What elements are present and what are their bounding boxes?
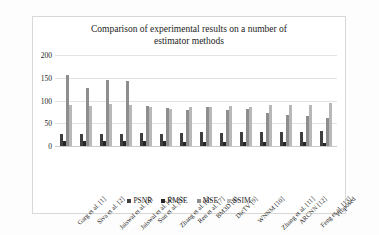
bar-ssim [109,104,112,146]
bar-group [236,55,256,146]
legend-label: SSIM [233,196,251,205]
bar-group [56,55,76,146]
chart-container: Comparison of experimental results on a … [32,16,346,214]
x-axis-labels: Garg et al. [1]Siva et al. [2]Jaiswal et… [55,148,337,200]
bar-ssim [249,107,252,146]
chart-title: Comparison of experimental results on a … [33,23,345,47]
bar-group [76,55,96,146]
chart-title-line-2: estimator methods [33,35,345,47]
bar-group [216,55,236,146]
bar-group [96,55,116,146]
y-axis-tick-label: 150 [41,73,52,82]
legend-swatch-icon [161,199,165,203]
bar-group [256,55,276,146]
bar-ssim [69,105,72,146]
bar-group [316,55,336,146]
bar-ssim [229,106,232,146]
legend-swatch-icon [197,199,201,203]
legend-swatch-icon [127,199,131,203]
plot-wrapper: 050100150200 [55,55,337,147]
legend-item[interactable]: SSIM [227,196,251,205]
y-axis-tick-label: 0 [48,142,52,151]
legend-item[interactable]: PSNR [127,196,152,205]
bar-ssim [209,107,212,146]
bar-group [196,55,216,146]
bar-ssim [289,105,292,146]
legend-label: RMSE [167,196,187,205]
bar-ssim [89,106,92,146]
legend-item[interactable]: RMSE [161,196,187,205]
legend-swatch-icon [227,199,231,203]
bar-ssim [329,103,332,146]
chart-title-line-1: Comparison of experimental results on a … [33,23,345,35]
bar-ssim [169,109,172,146]
legend-item[interactable]: MSE [197,196,218,205]
bar-ssim [149,107,152,146]
y-axis-tick-label: 50 [45,119,53,128]
y-axis-tick-label: 100 [41,96,52,105]
bar-ssim [309,105,312,146]
bar-group [136,55,156,146]
bar-group [156,55,176,146]
chart-legend: PSNRRMSEMSESSIM [33,196,345,205]
bar-group [176,55,196,146]
bar-group [276,55,296,146]
bar-ssim [269,105,272,146]
bar-group [116,55,136,146]
bar-group [296,55,316,146]
y-axis-tick-label: 200 [41,51,52,60]
bar-ssim [129,105,132,146]
bar-ssim [189,107,192,146]
plot-area: 050100150200 [55,55,337,147]
legend-label: MSE [203,196,218,205]
bar-groups [55,55,337,146]
legend-label: PSNR [133,196,152,205]
